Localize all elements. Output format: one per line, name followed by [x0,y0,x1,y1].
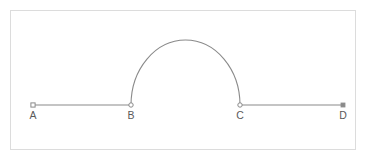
geometry-diagram: A B C D [0,0,368,162]
point-marker-b [129,103,133,107]
point-label-d: D [339,109,347,121]
point-marker-d [341,103,345,107]
point-marker-c [238,103,242,107]
figure-canvas: A B C D [0,0,368,162]
point-marker-a [31,103,35,107]
point-label-b: B [127,109,134,121]
point-label-a: A [29,109,36,121]
point-label-c: C [236,109,244,121]
diagram-frame [11,11,356,150]
